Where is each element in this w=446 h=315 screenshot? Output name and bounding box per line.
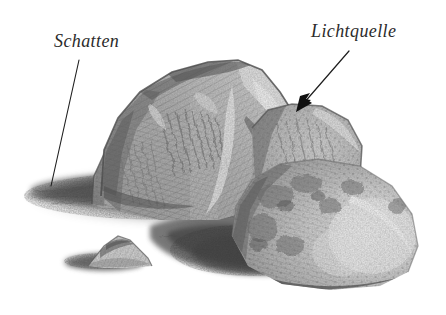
annotation-label-lichtquelle: Lichtquelle [311,21,396,42]
annotation-label-schatten: Schatten [54,31,119,52]
pebble [84,232,158,272]
drawing-canvas: Schatten Lichtquelle [0,0,446,315]
